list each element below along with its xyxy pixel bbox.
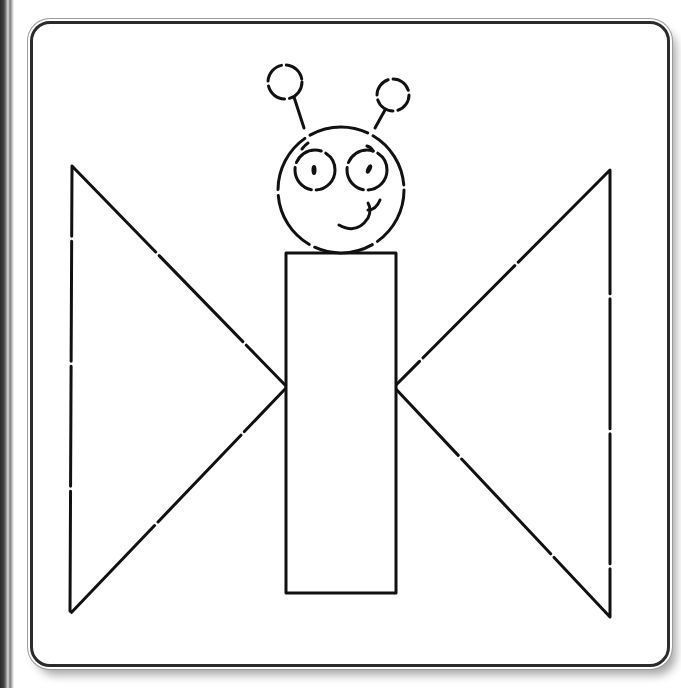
right-antenna <box>375 110 385 128</box>
left-antenna <box>294 97 304 128</box>
right-wing-triangle <box>394 170 610 617</box>
left-antenna-ball <box>268 65 302 99</box>
left-pupil <box>312 165 317 175</box>
butterfly-drawing <box>0 0 681 688</box>
body-rectangle <box>286 253 396 593</box>
right-antenna-ball <box>377 79 409 111</box>
head-circle <box>278 127 404 253</box>
left-wing-triangle <box>70 166 287 614</box>
